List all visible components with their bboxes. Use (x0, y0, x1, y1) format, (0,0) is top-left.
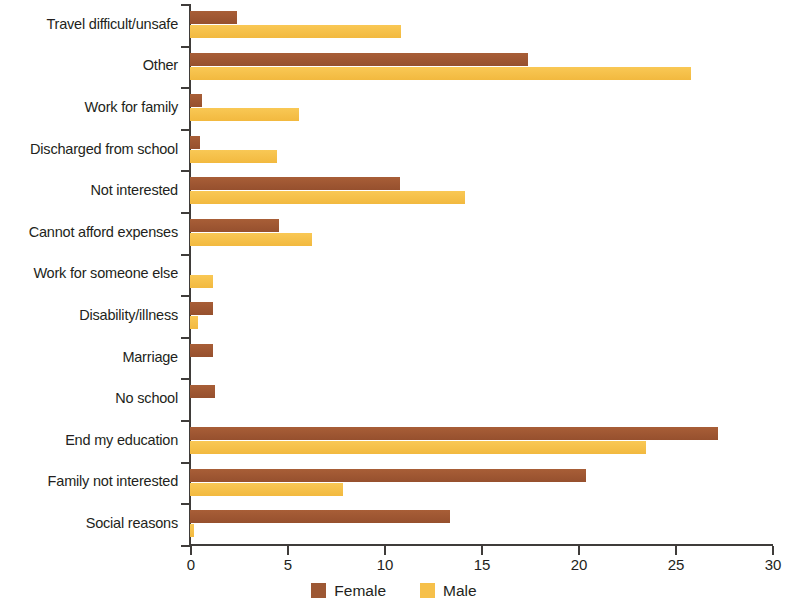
y-axis-tick (181, 378, 190, 380)
legend-entry-female: Female (311, 583, 386, 599)
legend-label-female: Female (334, 583, 386, 599)
x-axis-tick-label: 10 (365, 556, 405, 573)
y-axis-tick (181, 503, 190, 505)
y-axis-tick (181, 129, 190, 131)
y-axis-tick (181, 4, 190, 6)
chart-row: Other (0, 46, 788, 88)
x-axis-tick (287, 546, 289, 555)
x-axis-tick-label: 15 (462, 556, 502, 573)
bar-female (190, 302, 213, 315)
chart-legend: Female Male (0, 583, 788, 599)
x-axis-tick (772, 546, 774, 555)
bar-female (190, 344, 213, 357)
bar-female (190, 385, 215, 398)
bar-female (190, 94, 202, 107)
x-axis-tick (190, 546, 192, 555)
female-swatch-icon (311, 583, 326, 598)
chart-row: Work for family (0, 87, 788, 129)
category-label: Disability/illness (0, 308, 178, 323)
chart-row: No school (0, 378, 788, 420)
chart-row: Discharged from school (0, 129, 788, 171)
category-label: Work for family (0, 100, 178, 115)
y-axis-tick (181, 295, 190, 297)
chart-row: End my education (0, 420, 788, 462)
category-label: No school (0, 391, 178, 406)
legend-label-male: Male (443, 583, 477, 599)
bar-male (190, 233, 312, 246)
bar-female (190, 469, 586, 482)
bar-male (190, 275, 213, 288)
bar-male (190, 441, 646, 454)
bar-female (190, 427, 718, 440)
legend-entry-male: Male (420, 583, 477, 599)
chart-row: Social reasons (0, 503, 788, 545)
category-label: Family not interested (0, 474, 178, 489)
bar-male (190, 25, 401, 38)
y-axis-tick (181, 545, 190, 547)
x-axis-tick-label: 0 (171, 556, 211, 573)
y-axis-tick (181, 46, 190, 48)
bar-female (190, 136, 200, 149)
x-axis-tick-label: 5 (268, 556, 308, 573)
bar-female (190, 53, 528, 66)
chart-row: Family not interested (0, 462, 788, 504)
bar-male (190, 191, 465, 204)
chart-row: Marriage (0, 337, 788, 379)
bar-female (190, 11, 237, 24)
bar-chart: Travel difficult/unsafeOtherWork for fam… (0, 0, 788, 611)
y-axis-tick (181, 337, 190, 339)
male-swatch-icon (420, 583, 435, 598)
bar-male (190, 150, 277, 163)
x-axis-tick (481, 546, 483, 555)
bar-male (190, 316, 198, 329)
category-label: Cannot afford expenses (0, 225, 178, 240)
bar-male (190, 67, 691, 80)
category-label: Not interested (0, 183, 178, 198)
x-axis-tick-label: 20 (559, 556, 599, 573)
bar-female (190, 219, 279, 232)
chart-row: Disability/illness (0, 295, 788, 337)
category-label: Travel difficult/unsafe (0, 17, 178, 32)
chart-row: Cannot afford expenses (0, 212, 788, 254)
x-axis-tick-label: 30 (753, 556, 788, 573)
category-label: Work for someone else (0, 266, 178, 281)
x-axis-tick (675, 546, 677, 555)
category-label: Social reasons (0, 516, 178, 531)
y-axis-tick (181, 462, 190, 464)
bar-male (190, 108, 299, 121)
chart-row: Work for someone else (0, 254, 788, 296)
bar-female (190, 177, 400, 190)
bar-male (190, 524, 194, 537)
category-label: Discharged from school (0, 142, 178, 157)
y-axis-tick (181, 254, 190, 256)
category-label: End my education (0, 433, 178, 448)
category-label: Other (0, 58, 178, 73)
category-label: Marriage (0, 350, 178, 365)
chart-row: Not interested (0, 170, 788, 212)
x-axis-tick-label: 25 (656, 556, 696, 573)
bar-female (190, 510, 450, 523)
bar-male (190, 483, 343, 496)
y-axis-tick (181, 420, 190, 422)
x-axis-tick (578, 546, 580, 555)
y-axis-tick (181, 87, 190, 89)
y-axis-tick (181, 170, 190, 172)
chart-row: Travel difficult/unsafe (0, 4, 788, 46)
y-axis-tick (181, 212, 190, 214)
x-axis-tick (384, 546, 386, 555)
